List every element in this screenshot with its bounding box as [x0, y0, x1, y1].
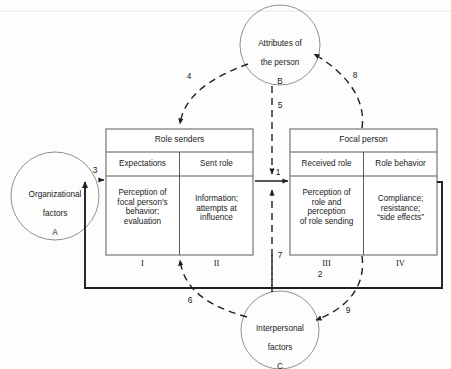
circle-label-attributes-of-the-person: Attributes of the person B [236, 29, 324, 97]
cell-subheader-received-role: Received role [290, 159, 363, 169]
numeral-II: II [180, 258, 253, 268]
box-title-focal-person: Focal person [290, 135, 437, 145]
arrow-label-9: 9 [342, 306, 354, 316]
circle-a-letter: A [11, 228, 99, 238]
cell-body-perception-of-focal-persons-behavior: Perception of focal person's behavior; e… [106, 188, 179, 227]
circle-label-organizational-factors: Organizational factors A [11, 180, 99, 248]
circle-c-letter: C [236, 362, 324, 369]
circle-a-line2: factors [11, 209, 99, 219]
circle-b-letter: B [236, 77, 324, 87]
numeral-I: I [106, 258, 179, 268]
arrow-label-4: 4 [183, 72, 195, 82]
cell-body-perception-of-role-and-perception-of-role-sending: Perception of role and perception of rol… [288, 188, 365, 227]
cell-body-information-attempts-at-influence: Information; attempts at influence [180, 194, 253, 223]
cell-subheader-role-behavior: Role behavior [364, 159, 437, 169]
arrow-label-1: 1 [272, 168, 284, 178]
circle-a-line1: Organizational [11, 190, 99, 200]
arrow-label-2: 2 [314, 270, 326, 280]
arrow-label-3: 3 [89, 166, 101, 176]
arrow-label-8: 8 [349, 71, 361, 81]
circle-b-line1: Attributes of [236, 39, 324, 49]
cell-subheader-sent-role: Sent role [180, 159, 253, 169]
numeral-III: III [290, 258, 363, 268]
diagram-canvas: Organizational factors A Attributes of t… [0, 0, 451, 369]
arrow-label-6: 6 [184, 296, 196, 306]
cell-body-compliance-resistance-side-effects: Compliance; resistance; “side effects” [364, 194, 437, 223]
arrow-label-7: 7 [274, 251, 286, 261]
box-title-role-senders: Role senders [106, 135, 253, 145]
circle-c-line2: factors [236, 343, 324, 353]
arrow-label-5: 5 [274, 101, 286, 111]
circle-c-line1: Interpersonal [236, 324, 324, 334]
cell-subheader-expectations: Expectations [106, 159, 179, 169]
circle-label-interpersonal-factors: Interpersonal factors C [236, 314, 324, 369]
circle-b-line2: the person [236, 58, 324, 68]
numeral-IV: IV [364, 258, 437, 268]
